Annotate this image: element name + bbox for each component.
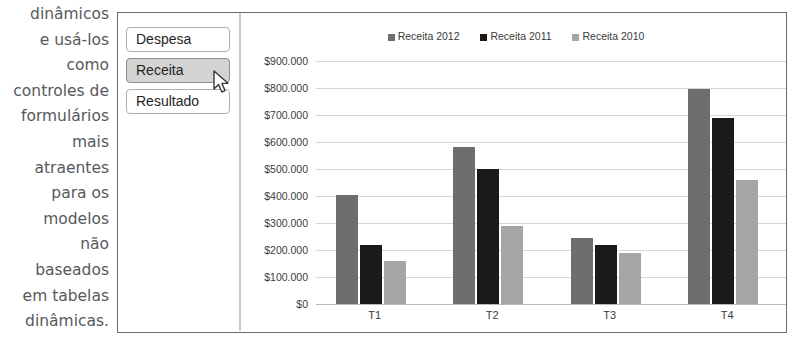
dashboard-panel: Despesa Receita Resultado Receita 2012 R… — [117, 12, 787, 333]
legend-label-receita-2012: Receita 2012 — [398, 30, 460, 42]
y-axis-tick-label: $800.000 — [246, 82, 308, 94]
y-axis-tick-label: $200.000 — [246, 244, 308, 256]
button-resultado[interactable]: Resultado — [126, 89, 230, 114]
bar-t2-2012[interactable] — [453, 147, 475, 304]
bar-t1-2011[interactable] — [360, 245, 382, 304]
body-text-line: como — [0, 53, 109, 79]
bar-t2-2010[interactable] — [501, 226, 523, 304]
y-axis-tick-label: $100.000 — [246, 271, 308, 283]
chart-x-axis: T1T2T3T4 — [316, 309, 786, 329]
x-axis-tick-label: T2 — [452, 309, 532, 321]
x-axis-tick-label: T3 — [570, 309, 650, 321]
y-axis-tick-label: $700.000 — [246, 109, 308, 121]
body-text-line: e usá-los — [0, 28, 109, 54]
report-type-button-group: Despesa Receita Resultado — [126, 27, 230, 120]
y-axis-tick-label: $900.000 — [246, 55, 308, 67]
body-paragraph-text: dinâmicos e usá-los como controles de fo… — [0, 2, 109, 335]
bar-t2-2011[interactable] — [477, 169, 499, 304]
body-text-line: não — [0, 232, 109, 258]
bar-t4-2012[interactable] — [688, 89, 710, 304]
bar-group-t3 — [571, 61, 641, 304]
legend-swatch-receita-2010 — [572, 34, 579, 41]
legend-swatch-receita-2012 — [388, 34, 395, 41]
legend-item-receita-2011: Receita 2011 — [480, 30, 551, 43]
bar-t3-2011[interactable] — [595, 245, 617, 304]
legend-item-receita-2010: Receita 2010 — [572, 30, 644, 43]
bar-t1-2010[interactable] — [384, 261, 406, 304]
y-axis-tick-label: $400.000 — [246, 190, 308, 202]
body-text-line: controles de — [0, 79, 109, 105]
x-axis-tick-label: T1 — [335, 309, 415, 321]
body-text-line: dinâmicos — [0, 2, 109, 28]
y-axis-tick-label: $0 — [246, 298, 308, 310]
receita-bar-chart: Receita 2012 Receita 2011 Receita 2010 $… — [246, 13, 786, 332]
bar-t3-2010[interactable] — [619, 253, 641, 304]
bar-group-t1 — [336, 61, 406, 304]
legend-swatch-receita-2011 — [480, 34, 487, 41]
bar-t4-2010[interactable] — [736, 180, 758, 304]
body-text-line: formulários — [0, 104, 109, 130]
bar-t1-2012[interactable] — [336, 195, 358, 304]
panel-divider — [239, 13, 241, 331]
body-text-line: em tabelas — [0, 284, 109, 310]
legend-item-receita-2012: Receita 2012 — [388, 30, 460, 43]
body-text-line: dinâmicas. — [0, 309, 109, 335]
bar-group-t4 — [688, 61, 758, 304]
chart-legend: Receita 2012 Receita 2011 Receita 2010 — [246, 30, 786, 43]
y-axis-tick-label: $300.000 — [246, 217, 308, 229]
body-text-line: para os — [0, 181, 109, 207]
body-text-line: mais — [0, 130, 109, 156]
chart-y-axis: $900.000$800.000$700.000$600.000$500.000… — [246, 13, 312, 332]
body-text-line: atraentes — [0, 156, 109, 182]
bar-group-t2 — [453, 61, 523, 304]
body-text-line: modelos — [0, 207, 109, 233]
button-receita[interactable]: Receita — [126, 58, 230, 83]
button-despesa[interactable]: Despesa — [126, 27, 230, 52]
legend-label-receita-2011: Receita 2011 — [490, 30, 551, 42]
y-axis-tick-label: $500.000 — [246, 163, 308, 175]
chart-gridline — [316, 304, 786, 305]
y-axis-tick-label: $600.000 — [246, 136, 308, 148]
bar-t4-2011[interactable] — [712, 118, 734, 304]
x-axis-tick-label: T4 — [687, 309, 767, 321]
bar-t3-2012[interactable] — [571, 238, 593, 304]
legend-label-receita-2010: Receita 2010 — [582, 30, 644, 42]
body-text-line: baseados — [0, 258, 109, 284]
chart-plot-area — [316, 61, 786, 304]
